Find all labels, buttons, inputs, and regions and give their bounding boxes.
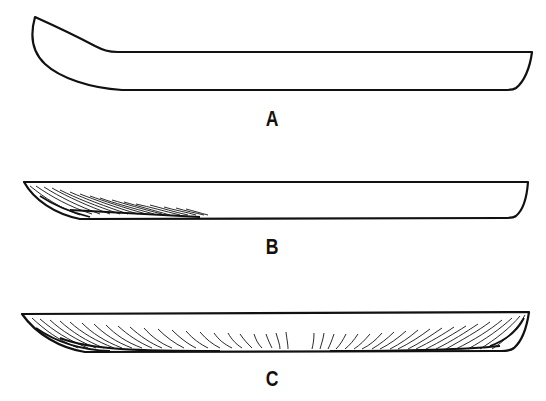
- profile-b: [24, 182, 528, 219]
- profile-a: [32, 17, 532, 90]
- profile-c: [22, 312, 529, 352]
- diagram-canvas: [0, 0, 546, 401]
- label-a: A: [260, 108, 284, 130]
- label-c: C: [260, 368, 284, 390]
- shading-c: [32, 315, 525, 351]
- label-b: B: [260, 236, 284, 258]
